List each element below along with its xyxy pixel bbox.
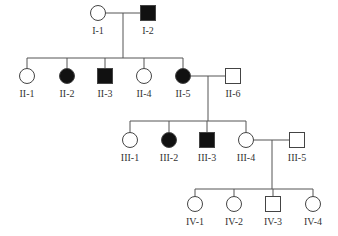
affected-female-circle-icon bbox=[60, 69, 75, 84]
individual-label: IV-2 bbox=[225, 216, 243, 227]
individual-ii-4: II-4 bbox=[137, 69, 152, 100]
individual-ii-5: II-5 bbox=[176, 69, 191, 100]
unaffected-male-square-icon bbox=[290, 133, 305, 148]
individual-ii-6: II-6 bbox=[226, 69, 241, 100]
individual-label: I-2 bbox=[142, 25, 154, 36]
individual-i-2: I-2 bbox=[141, 6, 156, 37]
individual-iii-2: III-2 bbox=[160, 133, 178, 164]
individual-label: II-3 bbox=[98, 88, 113, 99]
pedigree-individuals: I-1I-2II-1II-2II-3II-4II-5II-6III-1III-2… bbox=[20, 6, 322, 228]
unaffected-female-circle-icon bbox=[91, 6, 106, 21]
individual-label: III-2 bbox=[160, 152, 178, 163]
individual-label: I-1 bbox=[92, 25, 104, 36]
individual-label: II-4 bbox=[137, 88, 152, 99]
affected-male-square-icon bbox=[200, 133, 215, 148]
individual-i-1: I-1 bbox=[91, 6, 106, 37]
unaffected-male-square-icon bbox=[266, 197, 281, 212]
individual-label: IV-3 bbox=[264, 216, 282, 227]
individual-label: III-3 bbox=[198, 152, 216, 163]
affected-male-square-icon bbox=[141, 6, 156, 21]
unaffected-female-circle-icon bbox=[227, 197, 242, 212]
pedigree-lines bbox=[27, 13, 313, 197]
unaffected-female-circle-icon bbox=[20, 69, 35, 84]
individual-iv-4: IV-4 bbox=[304, 197, 322, 228]
individual-iv-1: IV-1 bbox=[186, 197, 204, 228]
unaffected-male-square-icon bbox=[226, 69, 241, 84]
unaffected-female-circle-icon bbox=[123, 133, 138, 148]
individual-ii-3: II-3 bbox=[98, 69, 113, 100]
unaffected-female-circle-icon bbox=[306, 197, 321, 212]
individual-iii-1: III-1 bbox=[121, 133, 139, 164]
pedigree-chart: I-1I-2II-1II-2II-3II-4II-5II-6III-1III-2… bbox=[0, 0, 338, 236]
individual-label: IV-4 bbox=[304, 216, 322, 227]
individual-label: III-1 bbox=[121, 152, 139, 163]
unaffected-female-circle-icon bbox=[137, 69, 152, 84]
unaffected-female-circle-icon bbox=[239, 133, 254, 148]
individual-label: II-5 bbox=[176, 88, 191, 99]
individual-label: IV-1 bbox=[186, 216, 204, 227]
affected-male-square-icon bbox=[98, 69, 113, 84]
affected-female-circle-icon bbox=[162, 133, 177, 148]
individual-label: II-6 bbox=[226, 88, 241, 99]
individual-iii-4: III-4 bbox=[237, 133, 255, 164]
individual-label: II-1 bbox=[20, 88, 35, 99]
individual-iii-3: III-3 bbox=[198, 133, 216, 164]
individual-label: III-4 bbox=[237, 152, 255, 163]
individual-iii-5: III-5 bbox=[288, 133, 306, 164]
individual-label: III-5 bbox=[288, 152, 306, 163]
unaffected-female-circle-icon bbox=[188, 197, 203, 212]
individual-iv-2: IV-2 bbox=[225, 197, 243, 228]
individual-ii-1: II-1 bbox=[20, 69, 35, 100]
individual-label: II-2 bbox=[60, 88, 75, 99]
affected-female-circle-icon bbox=[176, 69, 191, 84]
individual-iv-3: IV-3 bbox=[264, 197, 282, 228]
individual-ii-2: II-2 bbox=[60, 69, 75, 100]
